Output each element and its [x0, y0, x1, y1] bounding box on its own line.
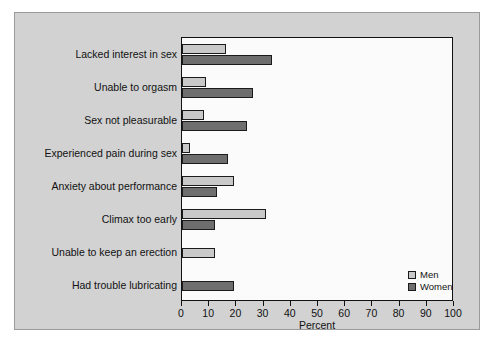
bar-men-5 [182, 209, 266, 219]
bar-men-2 [182, 110, 204, 120]
x-tick-label: 40 [284, 307, 296, 319]
x-axis-ticks: 0102030405060708090100 [181, 301, 454, 307]
legend-item-women: Women [408, 281, 453, 292]
x-tick [290, 301, 291, 306]
legend-label-women: Women [420, 282, 453, 292]
category-label-column: Lacked interest in sexUnable to orgasmSe… [31, 37, 177, 301]
x-tick [263, 301, 264, 306]
x-axis-title: Percent [181, 319, 453, 331]
bar-women-3 [182, 154, 228, 164]
category-label: Sex not pleasurable [84, 114, 177, 126]
bar-women-0 [182, 55, 272, 65]
x-tick-label: 70 [366, 307, 378, 319]
x-tick-label: 30 [257, 307, 269, 319]
x-tick [371, 301, 372, 306]
legend-swatch-women-icon [408, 283, 416, 291]
x-tick-label: 20 [230, 307, 242, 319]
x-tick [208, 301, 209, 306]
x-tick-label: 80 [393, 307, 405, 319]
category-label: Unable to keep an erection [51, 246, 177, 258]
x-tick-label: 10 [202, 307, 214, 319]
legend-label-men: Men [420, 270, 438, 280]
bar-men-0 [182, 44, 226, 54]
x-tick-label: 60 [338, 307, 350, 319]
x-tick [453, 301, 454, 306]
x-tick [317, 301, 318, 306]
x-tick [426, 301, 427, 306]
x-tick-label: 90 [420, 307, 432, 319]
category-label: Lacked interest in sex [75, 48, 177, 60]
plot-area [181, 37, 453, 301]
category-label: Unable to orgasm [94, 81, 177, 93]
x-tick-label: 100 [444, 307, 462, 319]
x-tick [399, 301, 400, 306]
x-tick [235, 301, 236, 306]
x-tick-label: 50 [311, 307, 323, 319]
legend-item-men: Men [408, 269, 453, 280]
category-label: Anxiety about performance [52, 180, 178, 192]
bar-men-1 [182, 77, 206, 87]
x-tick-label: 0 [178, 307, 184, 319]
legend-swatch-men-icon [408, 271, 416, 279]
category-label: Had trouble lubricating [72, 279, 177, 291]
category-label: Experienced pain during sex [44, 147, 177, 159]
bar-women-7 [182, 281, 234, 291]
bar-women-1 [182, 88, 253, 98]
figure-panel: Lacked interest in sexUnable to orgasmSe… [14, 12, 480, 330]
chart-legend: Men Women [408, 269, 453, 293]
bar-women-5 [182, 220, 215, 230]
x-tick [344, 301, 345, 306]
bar-men-6 [182, 248, 215, 258]
chart-screenshot: Lacked interest in sexUnable to orgasmSe… [0, 0, 496, 343]
x-tick [181, 301, 182, 306]
bar-women-4 [182, 187, 217, 197]
bar-men-3 [182, 143, 190, 153]
category-label: Climax too early [102, 213, 177, 225]
bar-men-4 [182, 176, 234, 186]
bar-women-2 [182, 121, 247, 131]
